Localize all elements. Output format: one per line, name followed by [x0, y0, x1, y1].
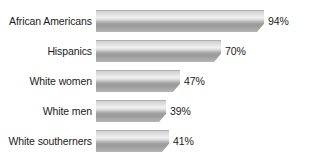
bar-fill	[96, 100, 166, 122]
value-label-white-southerners: 41%	[173, 126, 194, 156]
value-label-african-americans: 94%	[268, 6, 289, 36]
bar-chart: African Americans 94% Hispanics 70% Whit…	[0, 0, 313, 167]
cropped-title-remnant	[0, 0, 313, 5]
bar-rows: African Americans 94% Hispanics 70% Whit…	[0, 6, 313, 167]
bar-white-men	[96, 100, 166, 122]
value-label-white-women: 47%	[184, 66, 205, 96]
bar-fill	[96, 10, 264, 32]
bar-row: White men 39%	[0, 96, 313, 126]
bar-row: Hispanics 70%	[0, 36, 313, 66]
bar-fill	[96, 40, 221, 62]
category-label-hispanics: Hispanics	[0, 36, 92, 66]
bar-row: White women 47%	[0, 66, 313, 96]
bar-fill	[96, 130, 169, 152]
bar-white-women	[96, 70, 180, 92]
category-label-african-americans: African Americans	[0, 6, 92, 36]
bar-hispanics	[96, 40, 221, 62]
bar-fill	[96, 70, 180, 92]
value-label-white-men: 39%	[170, 96, 191, 126]
category-label-white-men: White men	[0, 96, 92, 126]
bar-white-southerners	[96, 130, 169, 152]
bar-row: African Americans 94%	[0, 6, 313, 36]
bar-african-americans	[96, 10, 264, 32]
category-label-white-southerners: White southerners	[0, 126, 92, 156]
bar-row: White southerners 41%	[0, 126, 313, 156]
category-label-white-women: White women	[0, 66, 92, 96]
value-label-hispanics: 70%	[225, 36, 246, 66]
